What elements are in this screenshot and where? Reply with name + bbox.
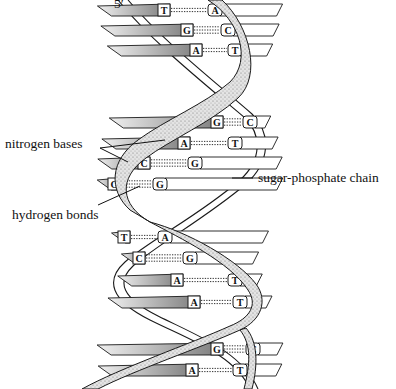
left-base-bar bbox=[108, 296, 200, 308]
left-base-letter: T bbox=[121, 232, 128, 243]
left-base-letter: A bbox=[192, 45, 200, 56]
base-pair: CG bbox=[121, 252, 258, 264]
five-prime-end-label: 5′ bbox=[114, 0, 124, 12]
hydrogen-bonds-label: hydrogen bonds bbox=[12, 207, 99, 223]
right-base-letter: T bbox=[232, 45, 239, 56]
dna-diagram: TAGCATGCATCGCGTACGATATGCAT 5′ nitrogen b… bbox=[0, 0, 396, 389]
left-base-letter: T bbox=[161, 5, 168, 16]
left-base-letter: G bbox=[213, 117, 221, 128]
left-base-letter: A bbox=[180, 138, 188, 149]
right-base-letter: G bbox=[186, 253, 194, 264]
dna-helix-illustration: TAGCATGCATCGCGTACGATATGCAT bbox=[0, 0, 396, 389]
left-base-letter: A bbox=[190, 297, 198, 308]
right-base-letter: T bbox=[237, 297, 244, 308]
left-base-letter: C bbox=[135, 253, 142, 264]
nitrogen-bases-label: nitrogen bases bbox=[5, 136, 83, 152]
sugar-phosphate-chain-label: sugar-phosphate chain bbox=[258, 170, 379, 186]
right-base-bar bbox=[200, 157, 282, 169]
left-base-letter: G bbox=[213, 344, 221, 355]
right-base-letter: T bbox=[237, 365, 244, 376]
right-base-letter: A bbox=[161, 232, 169, 243]
left-base-bar bbox=[107, 44, 202, 56]
right-base-letter: C bbox=[246, 117, 253, 128]
right-base-letter: G bbox=[191, 158, 199, 169]
left-base-letter: A bbox=[173, 275, 181, 286]
left-base-bar bbox=[101, 24, 193, 36]
left-base-letter: A bbox=[188, 365, 196, 376]
right-base-bar bbox=[240, 137, 278, 149]
right-base-letter: T bbox=[232, 138, 239, 149]
base-pair: AT bbox=[108, 296, 272, 308]
base-pair: AT bbox=[102, 137, 278, 149]
base-pair: GC bbox=[101, 24, 279, 36]
right-base-letter: G bbox=[156, 179, 164, 190]
left-base-letter: G bbox=[183, 25, 191, 36]
base-pair: TA bbox=[97, 4, 282, 16]
right-base-bar bbox=[258, 343, 283, 355]
right-base-letter: C bbox=[224, 25, 231, 36]
